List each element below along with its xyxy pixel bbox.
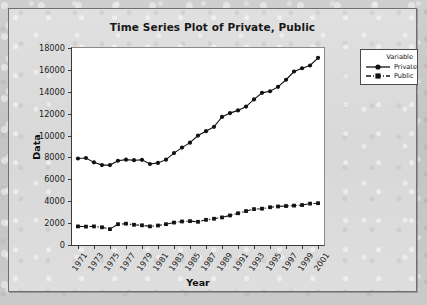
legend-label-private: Private	[394, 63, 417, 71]
data-point	[284, 204, 288, 208]
data-point	[308, 202, 312, 206]
series-line	[78, 58, 318, 165]
y-axis-tick-label: 0	[60, 240, 65, 250]
x-axis-tick	[110, 245, 111, 249]
data-point	[236, 108, 240, 112]
data-point	[92, 225, 96, 229]
y-axis-tick-label: 10000	[39, 131, 65, 141]
data-point	[204, 218, 208, 222]
y-axis-tick-label: 4000	[44, 196, 65, 206]
data-point	[156, 161, 160, 165]
data-point	[116, 159, 120, 163]
data-point	[212, 217, 216, 221]
data-point	[268, 89, 272, 93]
x-axis-tick	[126, 245, 127, 249]
y-axis-tick	[68, 136, 72, 137]
data-point	[148, 225, 152, 229]
data-point	[140, 158, 144, 162]
data-point	[276, 205, 280, 209]
y-axis-tick-label: 6000	[44, 174, 65, 184]
y-axis-tick	[68, 245, 72, 246]
data-point	[148, 162, 152, 166]
data-point	[116, 222, 120, 226]
legend-item-private[interactable]: Private	[365, 63, 413, 71]
data-point	[124, 158, 128, 162]
y-axis-tick	[68, 201, 72, 202]
legend-title: Variable	[365, 53, 413, 61]
x-axis-tick	[78, 245, 79, 249]
data-point	[164, 158, 168, 162]
data-point	[236, 211, 240, 215]
data-point	[196, 220, 200, 224]
x-axis-tick	[286, 245, 287, 249]
plot-area: 0200040006000800010000120001400016000180…	[71, 47, 325, 246]
data-point	[252, 207, 256, 211]
data-point	[268, 205, 272, 209]
y-axis-tick	[68, 223, 72, 224]
x-axis-tick	[190, 245, 191, 249]
data-point	[204, 129, 208, 133]
data-point	[100, 225, 104, 229]
data-point	[180, 146, 184, 150]
data-point	[124, 222, 128, 226]
y-axis-tick-label: 18000	[39, 43, 65, 53]
data-point	[244, 209, 248, 213]
data-point	[308, 63, 312, 67]
data-point	[292, 204, 296, 208]
series-private	[76, 56, 320, 167]
data-point	[260, 91, 264, 95]
x-axis-tick	[142, 245, 143, 249]
data-point	[212, 125, 216, 129]
series-canvas	[72, 48, 324, 245]
data-point	[76, 156, 80, 160]
data-point	[132, 158, 136, 162]
data-point	[284, 78, 288, 82]
x-axis-tick	[302, 245, 303, 249]
legend-symbol-public	[365, 72, 391, 80]
data-point	[108, 227, 112, 231]
data-point	[276, 85, 280, 89]
data-point	[84, 225, 88, 229]
data-point	[196, 133, 200, 137]
x-axis-tick	[254, 245, 255, 249]
data-point	[180, 220, 184, 224]
data-point	[260, 207, 264, 211]
y-axis-tick	[68, 48, 72, 49]
x-axis-tick	[270, 245, 271, 249]
x-axis-tick	[158, 245, 159, 249]
data-point	[108, 163, 112, 167]
data-point	[220, 115, 224, 119]
y-axis-tick-label: 8000	[44, 152, 65, 162]
legend: Variable Private Public	[360, 49, 418, 85]
series-public	[76, 201, 320, 231]
data-point	[188, 219, 192, 223]
y-axis-tick	[68, 70, 72, 71]
x-axis-tick	[318, 245, 319, 249]
data-point	[140, 223, 144, 227]
x-axis-tick	[174, 245, 175, 249]
data-point	[252, 97, 256, 101]
data-point	[172, 221, 176, 225]
data-point	[220, 216, 224, 220]
y-axis-tick	[68, 92, 72, 93]
data-point	[300, 203, 304, 207]
y-axis-tick-label: 16000	[39, 65, 65, 75]
legend-item-public[interactable]: Public	[365, 72, 413, 80]
data-point	[156, 224, 160, 228]
data-point	[84, 156, 88, 160]
data-point	[228, 214, 232, 218]
series-line	[78, 203, 318, 229]
y-axis-tick-label: 14000	[39, 87, 65, 97]
x-axis-tick	[94, 245, 95, 249]
data-point	[76, 225, 80, 229]
data-point	[92, 160, 96, 164]
data-point	[100, 163, 104, 167]
chart-title: Time Series Plot of Private, Public	[9, 21, 416, 33]
data-point	[244, 104, 248, 108]
y-axis-tick	[68, 114, 72, 115]
data-point	[188, 141, 192, 145]
x-axis-tick	[238, 245, 239, 249]
chart-panel: Time Series Plot of Private, Public Data…	[8, 8, 417, 292]
y-axis-tick-label: 12000	[39, 109, 65, 119]
data-point	[172, 151, 176, 155]
